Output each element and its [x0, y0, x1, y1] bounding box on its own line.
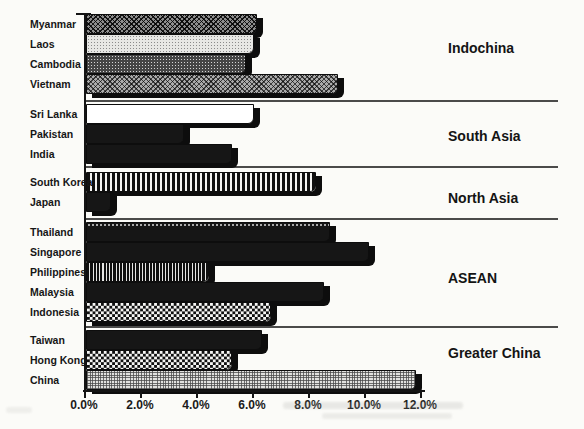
x-axis-tick-label: 2.0% — [116, 398, 164, 412]
country-label-hong-kong: Hong Kong — [30, 353, 87, 368]
country-label-thailand: Thailand — [30, 225, 73, 240]
scan-artifact — [283, 402, 463, 409]
bar-philippines — [86, 262, 209, 282]
country-label-laos: Laos — [30, 37, 55, 52]
x-axis-tick — [420, 391, 422, 398]
country-label-japan: Japan — [30, 195, 60, 210]
bar-china — [86, 370, 416, 390]
x-axis-tick — [84, 391, 86, 398]
country-label-philippines: Philippines — [30, 265, 86, 280]
bar-sri-lanka — [86, 104, 254, 124]
country-label-vietnam: Vietnam — [30, 77, 71, 92]
bar-pakistan — [86, 124, 184, 144]
bar-hong-kong — [86, 350, 232, 370]
bar-malaysia — [86, 282, 324, 302]
bar-cambodia — [86, 54, 246, 74]
scan-artifact — [322, 413, 452, 419]
bar-laos — [86, 34, 254, 54]
group-separator-line — [85, 166, 558, 168]
group-separator-line — [85, 326, 558, 328]
group-separator-line — [85, 100, 558, 102]
x-axis-tick — [308, 391, 310, 398]
x-axis-tick-label: 4.0% — [172, 398, 220, 412]
country-label-pakistan: Pakistan — [30, 127, 73, 142]
country-label-taiwan: Taiwan — [30, 333, 65, 348]
country-label-myanmar: Myanmar — [30, 17, 76, 32]
group-label-indochina: Indochina — [448, 40, 514, 56]
group-label-south-asia: South Asia — [448, 128, 521, 144]
y-axis-line — [84, 13, 86, 392]
scanned-bar-chart: MyanmarLaosCambodiaVietnamIndochinaSri L… — [0, 0, 584, 429]
x-axis-tick — [196, 391, 198, 398]
country-label-india: India — [30, 147, 55, 162]
bar-india — [86, 144, 232, 164]
scan-artifact — [6, 407, 32, 413]
country-label-malaysia: Malaysia — [30, 285, 74, 300]
bar-japan — [86, 192, 111, 212]
bar-indonesia — [86, 302, 271, 322]
x-axis-line — [83, 390, 425, 392]
country-label-sri-lanka: Sri Lanka — [30, 107, 77, 122]
country-label-cambodia: Cambodia — [30, 57, 81, 72]
bar-south-korea — [86, 172, 316, 192]
x-axis-tick — [140, 391, 142, 398]
x-axis-tick — [252, 391, 254, 398]
bar-singapore — [86, 242, 369, 262]
bar-thailand — [86, 222, 330, 242]
bar-myanmar — [86, 14, 257, 34]
bar-taiwan — [86, 330, 262, 350]
x-axis-tick — [364, 391, 366, 398]
group-separator-line — [85, 218, 558, 220]
group-label-greater-china: Greater China — [448, 345, 541, 361]
x-axis-tick-label: 0.0% — [60, 398, 108, 412]
bar-vietnam — [86, 74, 338, 94]
group-label-asean: ASEAN — [448, 270, 497, 286]
group-label-north-asia: North Asia — [448, 190, 518, 206]
x-axis-tick-label: 6.0% — [228, 398, 276, 412]
country-label-singapore: Singapore — [30, 245, 81, 260]
country-label-indonesia: Indonesia — [30, 305, 79, 320]
country-label-china: China — [30, 373, 59, 388]
